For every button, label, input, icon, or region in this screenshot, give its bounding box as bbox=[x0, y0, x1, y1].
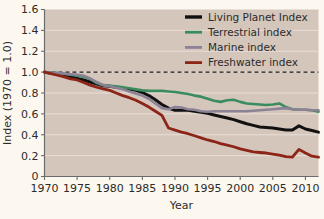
x-tick-label: 2005 bbox=[259, 182, 287, 195]
y-axis-title: Index (1970 = 1.0) bbox=[1, 41, 14, 145]
x-tick-label: 1990 bbox=[161, 182, 189, 195]
y-tick-label: 1.6 bbox=[21, 3, 39, 16]
x-tick-label: 1995 bbox=[194, 182, 222, 195]
x-tick-label: 1980 bbox=[96, 182, 124, 195]
line-chart: 00.20.40.60.81.01.21.41.6 19701975198019… bbox=[0, 0, 324, 219]
y-axis-title-text: Index (1970 = 1.0) bbox=[1, 41, 14, 145]
x-tick-label: 1985 bbox=[128, 182, 156, 195]
y-tick-label: 1.0 bbox=[21, 66, 39, 79]
x-tick-label: 1975 bbox=[63, 182, 91, 195]
x-axis-title-text: Year bbox=[169, 199, 194, 212]
y-tick-label: 0.4 bbox=[21, 129, 39, 142]
y-tick-label: 1.4 bbox=[21, 24, 39, 37]
x-tick-label: 1970 bbox=[31, 182, 59, 195]
x-axis-title: Year bbox=[169, 199, 194, 212]
legend-label-1: Terrestrial index bbox=[207, 26, 292, 38]
chart-figure: 00.20.40.60.81.01.21.41.6 19701975198019… bbox=[0, 0, 324, 219]
x-tick-label: 2010 bbox=[291, 182, 319, 195]
legend-label-3: Freshwater index bbox=[208, 56, 298, 68]
y-tick-label: 0.8 bbox=[21, 87, 39, 100]
y-tick-label: 0.2 bbox=[21, 150, 39, 163]
legend-label-2: Marine index bbox=[208, 41, 276, 53]
legend-label-0: Living Planet Index bbox=[208, 11, 308, 23]
y-tick-label: 1.2 bbox=[21, 45, 39, 58]
x-tick-label: 2000 bbox=[226, 182, 254, 195]
y-tick-label: 0.6 bbox=[21, 108, 39, 121]
